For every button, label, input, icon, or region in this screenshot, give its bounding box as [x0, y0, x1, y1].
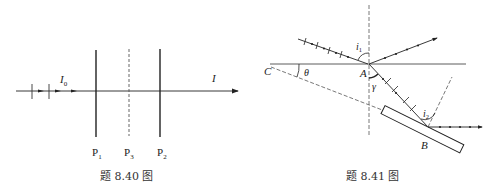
- figure-8-40: I0 I P1 P3 P2 题 8.40 图: [16, 49, 238, 183]
- label-gamma: γ: [372, 81, 377, 92]
- refracted-polarization-marks: [385, 78, 416, 111]
- caption-8-41: 题 8.41 图: [346, 170, 400, 183]
- label-i: I: [211, 72, 217, 84]
- angle-arc-theta: [297, 64, 299, 77]
- label-i0: I0: [59, 73, 68, 88]
- angle-arc-gamma: [369, 74, 378, 78]
- caption-8-40: 题 8.40 图: [100, 170, 154, 183]
- label-p3: P3: [124, 146, 134, 161]
- label-c: C: [264, 65, 272, 77]
- normal-line-b: [428, 77, 452, 127]
- arrow-icon: [55, 90, 61, 93]
- label-b: B: [421, 139, 428, 151]
- label-i2: i2: [423, 108, 429, 120]
- angle-arc-i1: [358, 53, 369, 60]
- figure-8-41: i1 θ C A γ i2 B 题 8.41 图: [264, 5, 482, 183]
- reflected-ray-a: [369, 38, 437, 64]
- arrow-icon: [38, 90, 44, 93]
- label-theta: θ: [304, 67, 309, 78]
- label-p2: P2: [157, 146, 167, 161]
- arrow-icon: [71, 90, 77, 93]
- label-i1: i1: [356, 41, 362, 53]
- diagram-canvas: I0 I P1 P3 P2 题 8.40 图: [0, 0, 495, 192]
- label-p1: P1: [92, 146, 102, 161]
- label-a: A: [359, 67, 367, 79]
